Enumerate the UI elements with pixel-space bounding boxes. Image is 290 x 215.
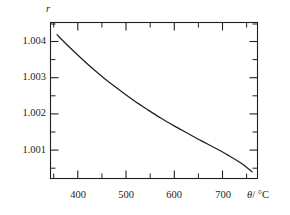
y-tick-label-1001: 1.001 [8, 145, 46, 156]
y-axis-ticks-right [250, 24, 258, 168]
y-tick-label-1003: 1.003 [8, 72, 46, 83]
y-axis-ticks-left [51, 24, 59, 168]
x-axis-title: θ/ °C [247, 190, 269, 201]
x-axis-ticks-bottom [54, 171, 247, 179]
x-tick-label-400: 400 [62, 190, 94, 201]
x-tick-label-600: 600 [158, 190, 190, 201]
plot-frame [51, 23, 258, 179]
y-tick-label-1002: 1.002 [8, 108, 46, 119]
x-axis-ticks-top [54, 23, 247, 31]
y-tick-label-1004: 1.004 [8, 36, 46, 47]
chart-figure: 1.004 1.003 1.002 1.001 400 500 600 700 … [0, 0, 290, 215]
data-curve-r-vs-theta [57, 35, 252, 172]
x-axis-title-unit: / °C [252, 189, 269, 200]
x-tick-label-500: 500 [110, 190, 142, 201]
y-axis-title: r [46, 4, 50, 15]
x-tick-label-700: 700 [207, 190, 239, 201]
